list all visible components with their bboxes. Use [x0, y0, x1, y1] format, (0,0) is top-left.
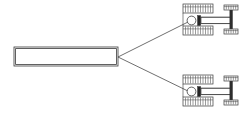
fan-line-upper: [118, 21, 190, 57]
upper-assembly-ground-bottom: [183, 26, 213, 35]
upper-assembly-pivot-joint: [187, 16, 196, 25]
lower-assembly-link-bar: [201, 88, 231, 94]
lower-assembly-ground-top: [183, 75, 213, 84]
fan-line-lower: [118, 57, 190, 92]
main-beam-inner: [16, 49, 117, 65]
diagram-svg: [0, 0, 250, 118]
lower-assembly: [183, 75, 238, 106]
lower-assembly-pad-bottom: [224, 100, 238, 105]
lower-assembly-piston-element: [198, 87, 201, 97]
main-beam-group: [14, 47, 118, 66]
assemblies-group: [183, 4, 238, 106]
upper-assembly-pad-bottom: [224, 29, 238, 34]
upper-assembly-piston-element: [198, 16, 201, 26]
lower-assembly-pad-top: [224, 76, 238, 81]
lower-assembly-ground-bottom: [183, 97, 213, 106]
diagram-canvas: [0, 0, 250, 118]
upper-assembly-pad-top: [224, 5, 238, 10]
upper-assembly-ground-top: [183, 4, 213, 13]
lower-assembly-pivot-joint: [187, 87, 196, 96]
upper-assembly: [183, 4, 238, 35]
upper-assembly-link-bar: [201, 17, 231, 23]
fan-lines-group: [118, 21, 190, 92]
